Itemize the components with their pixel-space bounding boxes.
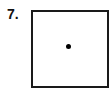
center-dot — [66, 44, 71, 49]
problem-number: 7. — [7, 7, 19, 21]
square-figure — [31, 10, 109, 88]
